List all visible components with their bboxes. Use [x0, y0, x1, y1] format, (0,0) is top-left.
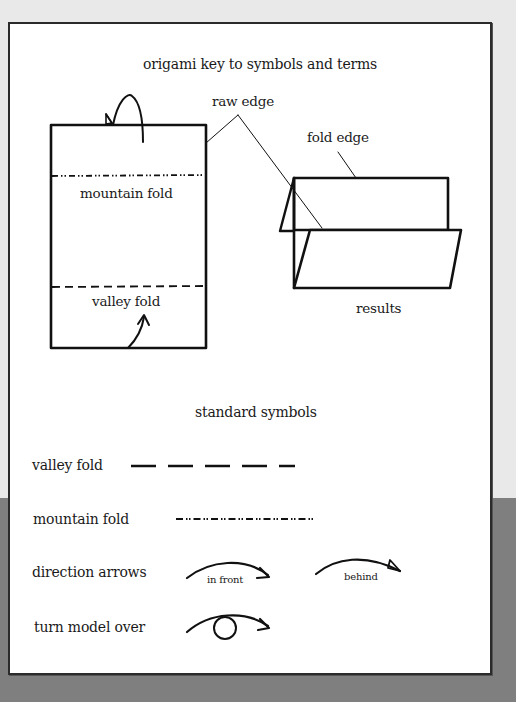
caption-in-front: in front	[207, 574, 243, 585]
valley-fold-line	[52, 286, 205, 287]
callout-fold-edge: fold edge	[307, 129, 369, 145]
behind-fold-arrow-icon	[113, 95, 143, 142]
key-label-mountain-fold: mountain fold	[33, 511, 129, 527]
result-front-panel	[294, 230, 461, 288]
paper-sheet	[51, 125, 206, 348]
callout-results: results	[356, 300, 401, 316]
page-title: origami key to symbols and terms	[143, 56, 377, 72]
callout-valley-fold: valley fold	[92, 293, 160, 309]
caption-behind: behind	[344, 571, 378, 582]
key-label-direction-arrows: direction arrows	[32, 564, 146, 580]
turn-over-circle-icon	[214, 617, 236, 639]
callout-raw-edge: raw edge	[212, 93, 274, 109]
valley-fold-arrow-icon	[128, 317, 144, 348]
key-label-valley-fold: valley fold	[32, 457, 103, 473]
mountain-fold-line	[52, 175, 205, 176]
standard-symbols-heading: standard symbols	[195, 404, 317, 420]
callout-mountain-fold: mountain fold	[80, 185, 173, 201]
key-label-turn-model-over: turn model over	[34, 619, 145, 635]
result-flap	[280, 178, 294, 231]
